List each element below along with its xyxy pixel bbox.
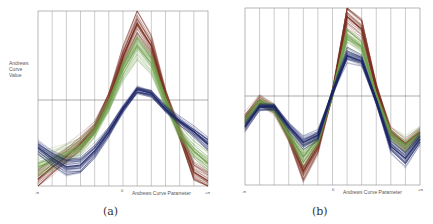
x-tick-min: -π: [242, 189, 246, 194]
x-axis-label: Andrews Curve Parameter: [132, 190, 191, 196]
x-axis-label: Andrews Curve Parameter: [343, 189, 402, 195]
y-axis-label-line: Value: [9, 72, 39, 78]
x-tick-zero: 0: [121, 188, 123, 193]
chart-panel-a: Andrews Curve Value -π 0 +π Andrews Curv…: [0, 0, 220, 224]
y-axis-label: Andrews Curve Value: [9, 60, 39, 78]
x-tick-max: +π: [418, 187, 423, 192]
x-tick-max: +π: [205, 190, 210, 195]
x-tick-zero: 0: [332, 187, 334, 192]
figure-caption: (b): [312, 205, 328, 218]
x-tick-min: -π: [35, 190, 39, 195]
chart-panel-b: -π 0 +π Andrews Curve Parameter (b): [220, 0, 433, 224]
figure-caption: (a): [103, 205, 118, 218]
